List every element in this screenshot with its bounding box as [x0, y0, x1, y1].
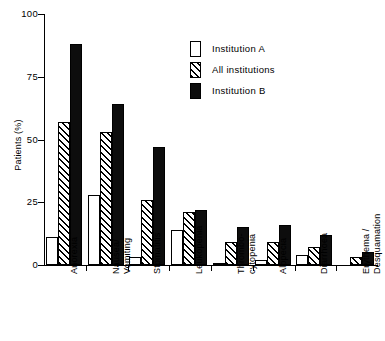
legend-label: Institution A — [212, 43, 265, 54]
x-tick-label: Stomatitis — [152, 232, 163, 274]
legend: Institution AAll institutionsInstitution… — [190, 38, 275, 101]
bar — [88, 195, 100, 265]
legend-swatch-black — [190, 83, 201, 99]
x-tick-label: Leukopenia — [194, 225, 205, 274]
legend-swatch-white — [190, 41, 201, 57]
x-tick-label: Thrombo- cytopenia — [236, 233, 257, 274]
y-axis-title: Patients (%) — [13, 105, 23, 185]
bar — [100, 132, 112, 265]
x-tick-label: Erythema / Desquamation — [361, 214, 382, 274]
bar-group — [296, 14, 332, 265]
y-tick-label: 50 — [12, 134, 38, 145]
legend-item: All institutions — [190, 59, 275, 80]
x-tick-label: Nausea/ Vomiting — [111, 238, 132, 274]
legend-label: Institution B — [212, 85, 266, 96]
y-tick-label: 75 — [12, 71, 38, 82]
y-tick-label: 25 — [12, 196, 38, 207]
bar — [296, 255, 308, 265]
legend-item: Institution B — [190, 80, 275, 101]
x-tick-label: Anorexia — [69, 237, 80, 274]
bar — [171, 230, 183, 265]
bar-group — [129, 14, 165, 265]
bar-group — [88, 14, 124, 265]
bar — [267, 242, 279, 265]
x-tick-mark — [295, 266, 296, 271]
x-tick-label: Alopecia — [278, 238, 289, 274]
x-tick-mark — [211, 266, 212, 271]
x-tick-mark — [86, 266, 87, 271]
bar-group — [46, 14, 82, 265]
x-tick-mark — [169, 266, 170, 271]
x-tick-mark — [336, 266, 337, 271]
legend-swatch-hatched — [190, 62, 201, 78]
bar — [70, 44, 82, 265]
legend-item: Institution A — [190, 38, 275, 59]
x-tick-label: Diarrhoea — [319, 233, 330, 274]
bar-chart: Patients (%) 0255075100 AnorexiaNausea/ … — [0, 0, 385, 341]
legend-label: All institutions — [212, 64, 275, 75]
bar — [46, 237, 58, 265]
y-tick-label: 100 — [12, 8, 38, 19]
y-tick-label: 0 — [12, 259, 38, 270]
